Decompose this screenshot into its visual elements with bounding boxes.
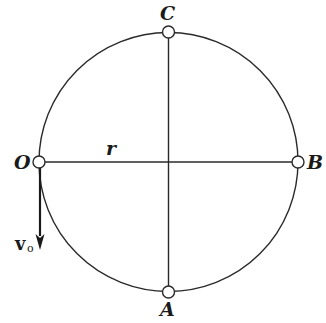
label-velocity-subscript: o bbox=[27, 242, 34, 255]
point-B-node bbox=[292, 156, 304, 168]
point-C-node bbox=[163, 26, 175, 38]
label-A: A bbox=[158, 298, 175, 320]
circle-diagram: O B C A r v o bbox=[0, 0, 326, 323]
label-B: B bbox=[306, 151, 323, 173]
label-O: O bbox=[14, 151, 31, 173]
velocity-arrowhead-icon bbox=[36, 234, 45, 250]
label-radius: r bbox=[106, 137, 118, 159]
label-C: C bbox=[160, 2, 175, 24]
point-A-node bbox=[163, 286, 175, 298]
point-O-node bbox=[33, 156, 45, 168]
label-velocity: v bbox=[14, 233, 26, 254]
